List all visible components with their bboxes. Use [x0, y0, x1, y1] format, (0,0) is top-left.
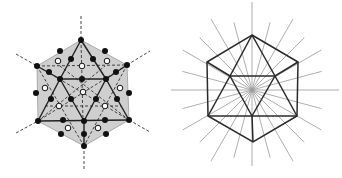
- white-lattice-point: [117, 85, 123, 91]
- white-lattice-point: [79, 63, 85, 69]
- white-lattice-point: [42, 85, 48, 91]
- radial-axis-ray: [252, 71, 322, 90]
- black-lattice-point: [81, 131, 87, 137]
- black-lattice-point: [60, 117, 66, 123]
- black-lattice-point: [48, 96, 54, 102]
- dashed-axis-line: [16, 54, 37, 66]
- white-lattice-point: [104, 58, 110, 64]
- black-lattice-point: [113, 69, 119, 75]
- black-lattice-point: [114, 96, 120, 102]
- white-lattice-point: [95, 125, 101, 131]
- radial-axis-ray: [234, 22, 252, 90]
- black-lattice-point: [57, 76, 63, 82]
- black-lattice-point: [124, 62, 130, 68]
- white-lattice-point: [56, 103, 62, 109]
- black-lattice-point: [57, 48, 63, 54]
- dashed-axis-line: [129, 120, 150, 132]
- black-lattice-point: [90, 56, 96, 62]
- black-lattice-point: [79, 76, 85, 82]
- white-lattice-point: [102, 103, 108, 109]
- solid-edge-line: [252, 116, 253, 142]
- black-lattice-point: [102, 48, 108, 54]
- icosahedron-shaded-svg: [0, 0, 171, 178]
- icosahedron-wireframe-svg: [171, 0, 342, 178]
- black-lattice-point: [68, 56, 74, 62]
- black-lattice-point: [126, 90, 132, 96]
- black-lattice-point: [78, 37, 84, 43]
- black-lattice-point: [81, 143, 87, 149]
- black-lattice-point: [93, 96, 99, 102]
- black-lattice-point: [33, 90, 39, 96]
- black-lattice-point: [126, 117, 132, 123]
- white-lattice-point: [55, 58, 61, 64]
- radial-axis-ray: [252, 90, 293, 161]
- icosahedron-shaded-figure: [0, 0, 171, 178]
- white-lattice-point: [80, 89, 86, 95]
- radial-axis-ray: [252, 22, 270, 90]
- icosahedron-wireframe-figure: [171, 0, 342, 178]
- black-lattice-point: [58, 131, 64, 137]
- black-lattice-point: [35, 118, 41, 124]
- white-lattice-point: [65, 125, 71, 131]
- black-lattice-point: [81, 118, 87, 124]
- solid-edge-line: [208, 76, 230, 116]
- black-lattice-point: [103, 76, 109, 82]
- black-lattice-point: [68, 96, 74, 102]
- radial-axis-ray: [183, 71, 253, 90]
- dashed-axis-line: [16, 121, 38, 133]
- black-lattice-point: [103, 131, 109, 137]
- black-lattice-point: [46, 69, 52, 75]
- dashed-axis-line: [127, 51, 150, 65]
- black-lattice-point: [102, 117, 108, 123]
- black-lattice-point: [34, 63, 40, 69]
